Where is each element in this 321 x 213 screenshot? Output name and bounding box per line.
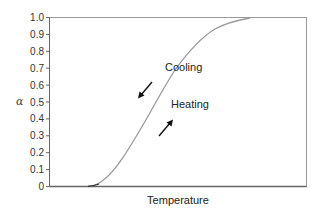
y-tick-0.6: 0.6 (30, 80, 44, 91)
y-tick-labels: 0 0.1 0.2 0.3 0.4 0.5 0.6 0.7 0.8 0.9 1.… (30, 12, 44, 192)
y-tick-0.5: 0.5 (30, 97, 44, 108)
y-tick-0.4: 0.4 (30, 113, 44, 124)
y-tick-0.2: 0.2 (30, 147, 44, 158)
heating-label: Heating (171, 98, 209, 110)
heating-arrow-icon (159, 120, 173, 137)
y-tick-0.8: 0.8 (30, 46, 44, 57)
cooling-label: Cooling (165, 61, 202, 73)
y-tick-0.1: 0.1 (30, 164, 44, 175)
y-tick-0: 0 (38, 181, 44, 192)
y-tick-0.9: 0.9 (30, 29, 44, 40)
cooling-arrow-icon (138, 82, 152, 99)
y-tick-1.0: 1.0 (30, 12, 44, 23)
y-ticks (46, 18, 50, 187)
y-axis-label: α (16, 95, 24, 108)
y-tick-0.3: 0.3 (30, 130, 44, 141)
x-axis-label: Temperature (147, 194, 209, 206)
y-tick-0.7: 0.7 (30, 63, 44, 74)
alpha-curve (88, 18, 250, 186)
chart: 0 0.1 0.2 0.3 0.4 0.5 0.6 0.7 0.8 0.9 1.… (0, 0, 321, 213)
